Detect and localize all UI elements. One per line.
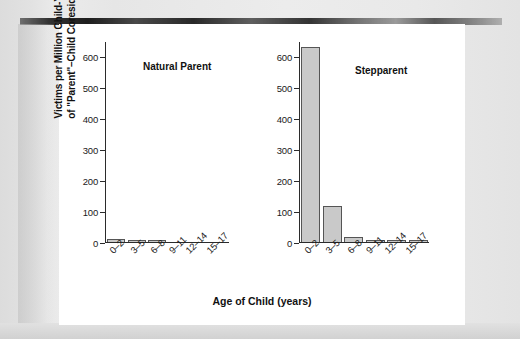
bar-slot bbox=[386, 42, 408, 242]
bar bbox=[301, 47, 320, 242]
y-tick-mark bbox=[294, 57, 299, 58]
bar-slot bbox=[127, 42, 148, 242]
bar-slot bbox=[147, 42, 168, 242]
y-tick-mark bbox=[100, 119, 105, 120]
plot-area-stepparent: 6005004003002001000 0–23–56–89–1112–1415… bbox=[299, 42, 429, 243]
bar-slot bbox=[188, 42, 209, 242]
y-tick-mark bbox=[294, 150, 299, 151]
x-axis-labels-stepparent: 0–23–56–89–1112–1415–17 bbox=[300, 243, 429, 287]
y-tick-mark bbox=[100, 88, 105, 89]
y-tick-label: 100 bbox=[83, 207, 98, 218]
y-tick-mark bbox=[294, 119, 299, 120]
bar-slot bbox=[168, 42, 189, 242]
bar-group-stepparent bbox=[300, 42, 429, 242]
bar-slot bbox=[300, 42, 322, 242]
y-tick-mark bbox=[100, 181, 105, 182]
bar-slot bbox=[106, 42, 127, 242]
bar-group-natural bbox=[106, 42, 229, 242]
panel-natural-parent: Natural Parent 6005004003002001000 0–23–… bbox=[59, 24, 259, 325]
x-label-slot: 3–5 bbox=[127, 243, 148, 287]
y-tick-mark bbox=[100, 212, 105, 213]
y-tick-label: 600 bbox=[83, 52, 98, 63]
x-label-slot: 3–5 bbox=[322, 243, 344, 287]
y-tick-mark bbox=[100, 150, 105, 151]
y-tick-label: 200 bbox=[83, 176, 98, 187]
bar-slot bbox=[365, 42, 387, 242]
y-tick-label: 500 bbox=[277, 83, 292, 94]
x-label-slot: 6–8 bbox=[147, 243, 168, 287]
y-tick-mark bbox=[100, 57, 105, 58]
chart-figure: Victims per Million Child-Years of "Pare… bbox=[59, 24, 465, 325]
bar-slot bbox=[408, 42, 430, 242]
y-tick-mark bbox=[100, 243, 105, 244]
x-label-slot: 0–2 bbox=[106, 243, 127, 287]
x-axis-labels-natural: 0–23–56–89–1112–1415–17 bbox=[106, 243, 229, 287]
figure-screenshot: Victims per Million Child-Years of "Pare… bbox=[0, 0, 520, 339]
scan-shadow-bottom bbox=[0, 323, 520, 339]
y-tick-mark bbox=[294, 181, 299, 182]
y-tick-label: 0 bbox=[93, 238, 98, 249]
x-label-slot: 6–8 bbox=[343, 243, 365, 287]
x-label-slot: 15–17 bbox=[209, 243, 230, 287]
x-label-slot: 9–11 bbox=[365, 243, 387, 287]
y-tick-label: 200 bbox=[277, 176, 292, 187]
y-tick-label: 400 bbox=[83, 114, 98, 125]
y-tick-mark bbox=[294, 243, 299, 244]
y-tick-mark bbox=[294, 212, 299, 213]
x-label-slot: 15–17 bbox=[408, 243, 430, 287]
y-tick-label: 600 bbox=[277, 52, 292, 63]
y-tick-label: 100 bbox=[277, 207, 292, 218]
bar-slot bbox=[209, 42, 230, 242]
y-tick-label: 500 bbox=[83, 83, 98, 94]
bar bbox=[323, 206, 342, 242]
x-label-slot: 0–2 bbox=[300, 243, 322, 287]
y-tick-label: 300 bbox=[83, 145, 98, 156]
panel-stepparent: Stepparent 6005004003002001000 0–23–56–8… bbox=[237, 24, 465, 325]
bar-slot bbox=[322, 42, 344, 242]
plot-area-natural-parent: 6005004003002001000 0–23–56–89–1112–1415… bbox=[105, 42, 229, 243]
x-axis-title: Age of Child (years) bbox=[59, 295, 465, 307]
y-tick-label: 300 bbox=[277, 145, 292, 156]
bar-slot bbox=[343, 42, 365, 242]
y-tick-label: 400 bbox=[277, 114, 292, 125]
y-tick-mark bbox=[294, 88, 299, 89]
y-tick-label: 0 bbox=[287, 238, 292, 249]
